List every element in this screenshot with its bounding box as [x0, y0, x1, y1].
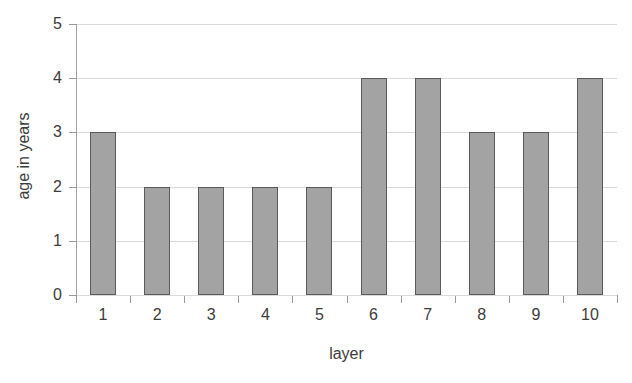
bar: [523, 132, 549, 295]
x-tick-mark: [292, 296, 293, 303]
x-tick-mark: [130, 296, 131, 303]
bar: [90, 132, 116, 295]
y-tick-mark: [69, 241, 77, 242]
x-tick-label: 6: [347, 307, 401, 323]
bar: [198, 187, 224, 295]
y-tick-label: 1: [28, 233, 62, 249]
x-tick-mark: [401, 296, 402, 303]
y-tick-mark: [69, 132, 77, 133]
x-tick-label: 10: [563, 307, 617, 323]
x-tick-mark: [509, 296, 510, 303]
y-tick-label: 4: [28, 70, 62, 86]
bar: [415, 78, 441, 295]
y-tick-mark: [69, 187, 77, 188]
y-tick-mark: [69, 78, 77, 79]
y-tick-label: 2: [28, 179, 62, 195]
bar: [252, 187, 278, 295]
bar: [469, 132, 495, 295]
bar: [306, 187, 332, 295]
x-tick-mark: [563, 296, 564, 303]
y-tick-label: 3: [28, 124, 62, 140]
bar: [577, 78, 603, 295]
y-axis-title: age in years: [15, 66, 33, 246]
x-tick-mark: [238, 296, 239, 303]
bar: [361, 78, 387, 295]
bar-chart-figure: age in years 012345 12345678910 layer: [0, 0, 632, 383]
x-tick-mark: [455, 296, 456, 303]
x-tick-label: 2: [130, 307, 184, 323]
x-tick-label: 5: [292, 307, 346, 323]
x-axis-title: layer: [76, 345, 617, 363]
gridline: [76, 78, 617, 79]
x-tick-label: 9: [509, 307, 563, 323]
y-tick-label: 0: [28, 287, 62, 303]
x-tick-mark: [76, 296, 77, 303]
x-tick-mark: [184, 296, 185, 303]
x-tick-label: 1: [76, 307, 130, 323]
x-tick-label: 3: [184, 307, 238, 323]
y-tick-mark: [69, 24, 77, 25]
x-tick-label: 8: [455, 307, 509, 323]
x-tick-label: 7: [401, 307, 455, 323]
x-tick-label: 4: [238, 307, 292, 323]
y-tick-label: 5: [28, 16, 62, 32]
bar: [144, 187, 170, 295]
x-tick-mark: [617, 296, 618, 303]
x-tick-mark: [347, 296, 348, 303]
gridline: [76, 24, 617, 25]
